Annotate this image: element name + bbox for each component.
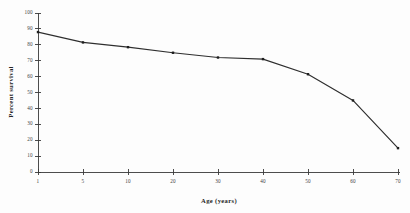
- y-tick-label: 90: [27, 25, 33, 31]
- x-tick-label: 30: [215, 178, 221, 184]
- x-tick-label: 1: [37, 178, 40, 184]
- chart-figure: 0102030405060708090100 1510203040506070 …: [0, 0, 410, 213]
- x-tick-label: 40: [260, 178, 266, 184]
- x-tick-label: 10: [125, 178, 131, 184]
- y-tick-label: 40: [27, 105, 33, 111]
- data-point-marker: [82, 41, 84, 43]
- y-tick-label: 0: [30, 168, 33, 174]
- data-point-markers: [37, 31, 399, 149]
- x-axis-title: Age (years): [201, 197, 237, 205]
- data-point-marker: [217, 56, 219, 58]
- data-point-marker: [307, 73, 309, 75]
- data-point-marker: [397, 147, 399, 149]
- line-chart: 0102030405060708090100 1510203040506070 …: [0, 0, 410, 213]
- data-series: [37, 31, 399, 149]
- y-tick-label: 30: [27, 120, 33, 126]
- y-axis-title: Percent survival: [7, 66, 14, 117]
- data-point-marker: [352, 99, 354, 101]
- y-tick-label: 50: [27, 89, 33, 95]
- x-tick-label: 5: [82, 178, 85, 184]
- data-point-marker: [127, 46, 129, 48]
- y-tick-label: 60: [27, 73, 33, 79]
- survival-line: [38, 32, 398, 148]
- y-tick-label: 80: [27, 41, 33, 47]
- x-axis-ticks: 1510203040506070: [37, 169, 401, 183]
- y-tick-label: 10: [27, 152, 33, 158]
- x-tick-label: 60: [350, 178, 356, 184]
- x-tick-label: 50: [305, 178, 311, 184]
- x-tick-label: 70: [395, 178, 401, 184]
- data-point-marker: [37, 31, 39, 33]
- y-tick-label: 20: [27, 136, 33, 142]
- x-tick-label: 20: [170, 178, 176, 184]
- chart-axes: [38, 13, 400, 172]
- y-tick-label: 70: [27, 57, 33, 63]
- data-point-marker: [172, 52, 174, 54]
- data-point-marker: [262, 58, 264, 60]
- y-tick-label: 100: [24, 9, 33, 15]
